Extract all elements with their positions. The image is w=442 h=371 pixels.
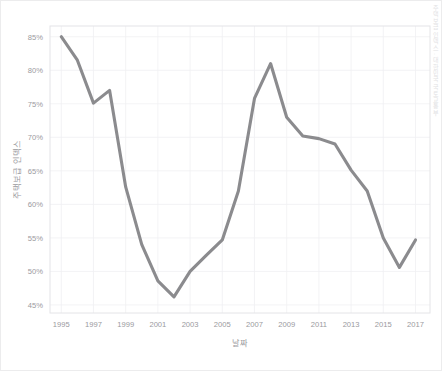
y-tick-label-50%: 50%	[28, 267, 43, 276]
y-tick-label-75%: 75%	[28, 100, 43, 109]
x-tick-label-1999: 1999	[117, 320, 134, 329]
plot-area: 45%50%55%60%65%70%75%80%85%1995199719992…	[1, 1, 442, 371]
y-tick-label-85%: 85%	[28, 33, 43, 42]
watermark-text: 주택보급 인덱스 · 대한민국 국토교통부	[426, 5, 440, 125]
y-tick-label-70%: 70%	[28, 133, 43, 142]
y-tick-label-80%: 80%	[28, 66, 43, 75]
x-tick-label-2003: 2003	[182, 320, 199, 329]
x-tick-label-2007: 2007	[246, 320, 263, 329]
y-tick-label-55%: 55%	[28, 234, 43, 243]
x-tick-label-2011: 2011	[311, 320, 327, 329]
line-chart-svg: 45%50%55%60%65%70%75%80%85%1995199719992…	[1, 1, 442, 371]
x-tick-label-2005: 2005	[214, 320, 231, 329]
x-tick-label-2013: 2013	[343, 320, 360, 329]
x-tick-label-2001: 2001	[149, 320, 166, 329]
x-tick-label-1995: 1995	[53, 320, 70, 329]
plot-background	[50, 26, 430, 313]
y-tick-label-60%: 60%	[28, 200, 43, 209]
y-tick-label-65%: 65%	[28, 167, 43, 176]
x-tick-label-2015: 2015	[375, 320, 392, 329]
x-tick-label-2009: 2009	[278, 320, 295, 329]
x-tick-label-2017: 2017	[407, 320, 424, 329]
x-axis-title: 날짜	[232, 338, 248, 348]
y-axis-title: 주택보급 인덱스	[12, 140, 22, 198]
chart-figure: 45%50%55%60%65%70%75%80%85%1995199719992…	[0, 0, 442, 371]
x-tick-label-1997: 1997	[85, 320, 102, 329]
y-tick-label-45%: 45%	[28, 301, 43, 310]
